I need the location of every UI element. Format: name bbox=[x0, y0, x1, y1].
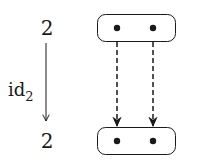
target-object-label: 2 bbox=[41, 129, 54, 153]
source-object-label: 2 bbox=[41, 16, 54, 40]
top-set-box bbox=[98, 15, 176, 42]
bottom-set-box bbox=[98, 128, 176, 155]
bottom-element-dot bbox=[150, 138, 156, 144]
top-element-dot bbox=[150, 25, 156, 31]
top-element-dot bbox=[114, 25, 120, 31]
morphism-subscript: 2 bbox=[25, 89, 33, 104]
bottom-element-dot bbox=[114, 138, 120, 144]
identity-morphism-diagram: 2 id2 2 bbox=[0, 0, 197, 163]
morphism-name: id bbox=[8, 79, 25, 100]
morphism-label: id2 bbox=[8, 79, 34, 104]
